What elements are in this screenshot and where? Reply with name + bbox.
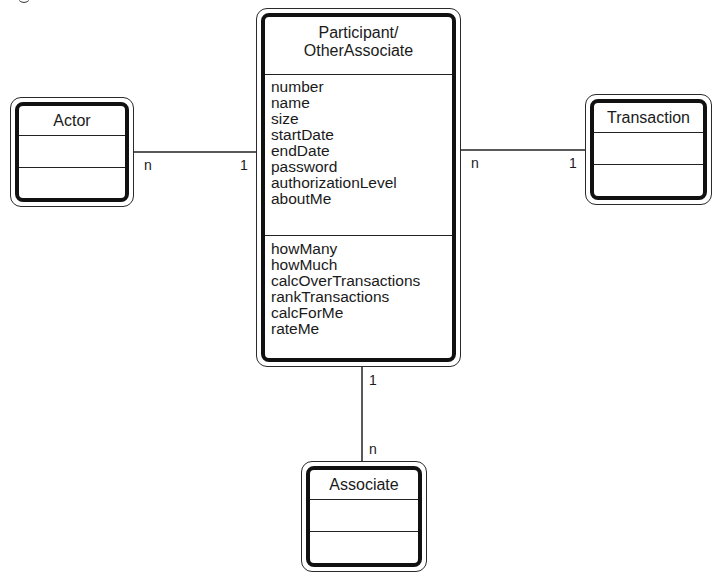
transaction-operations-compartment [594, 165, 703, 196]
attribute-number: number [265, 79, 452, 95]
class-actor-body: Actor [15, 102, 129, 202]
uml-class-diagram: Actor Participant/ OtherAssociate number… [0, 0, 720, 581]
operation-howmuch: howMuch [265, 257, 452, 273]
participant-attributes-compartment: number name size startDate endDate passw… [265, 75, 452, 236]
participant-operations-compartment: howMany howMuch calcOverTransactions ran… [265, 236, 452, 358]
multiplicity-transaction-side: 1 [569, 156, 577, 170]
class-name-line-1: Participant/ [267, 24, 450, 42]
class-associate-body: Associate [306, 466, 422, 567]
attribute-size: size [265, 111, 452, 127]
multiplicity-participant-bottom: 1 [369, 373, 377, 387]
attribute-authorizationlevel: authorizationLevel [265, 175, 452, 191]
class-participant-otherassociate[interactable]: Participant/ OtherAssociate number name … [256, 8, 461, 367]
class-name-actor: Actor [19, 106, 125, 136]
multiplicity-actor-side: n [144, 158, 152, 172]
class-name-participant: Participant/ OtherAssociate [265, 17, 452, 75]
clipped-text-fragment [18, 0, 30, 3]
attribute-startdate: startDate [265, 127, 452, 143]
actor-operations-compartment [19, 168, 125, 199]
operation-calcovertransactions: calcOverTransactions [265, 273, 452, 289]
operation-calcforme: calcForMe [265, 305, 452, 321]
associate-attributes-compartment [310, 500, 418, 532]
attribute-enddate: endDate [265, 143, 452, 159]
attribute-name: name [265, 95, 452, 111]
operation-ranktransactions: rankTransactions [265, 289, 452, 305]
class-transaction[interactable]: Transaction [585, 94, 712, 205]
attribute-aboutme: aboutMe [265, 191, 452, 207]
class-name-associate: Associate [310, 470, 418, 500]
multiplicity-participant-right: n [471, 156, 479, 170]
transaction-attributes-compartment [594, 133, 703, 165]
operation-rateme: rateMe [265, 321, 452, 337]
multiplicity-associate-side: n [369, 442, 377, 456]
class-associate[interactable]: Associate [301, 461, 427, 572]
class-participant-body: Participant/ OtherAssociate number name … [261, 13, 456, 362]
class-actor[interactable]: Actor [10, 97, 134, 207]
class-name-line-2: OtherAssociate [267, 42, 450, 60]
class-name-transaction: Transaction [594, 103, 703, 133]
actor-attributes-compartment [19, 136, 125, 168]
class-transaction-body: Transaction [590, 99, 707, 200]
attribute-password: password [265, 159, 452, 175]
operation-howmany: howMany [265, 241, 452, 257]
multiplicity-participant-left: 1 [240, 158, 248, 172]
associate-operations-compartment [310, 532, 418, 563]
